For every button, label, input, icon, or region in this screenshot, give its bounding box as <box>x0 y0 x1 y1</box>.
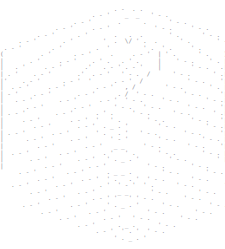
ascii-art-figure: . - . . . - ' _ _ ' - . . - ' . . ' - . … <box>0 0 225 249</box>
ascii-art-canvas: . - . . . - ' _ _ ' - . . - ' . . ' - . … <box>0 0 225 249</box>
